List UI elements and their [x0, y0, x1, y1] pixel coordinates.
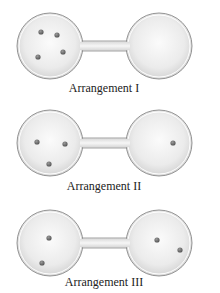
bulb-apparatus — [17, 13, 192, 79]
arrangement-2: Arrangement II — [17, 110, 192, 193]
arrangement-label: Arrangement III — [65, 275, 143, 289]
molecule-icon — [35, 54, 40, 59]
molecule-icon — [46, 235, 51, 240]
molecule-icon — [54, 32, 59, 37]
molecule-icon — [170, 140, 175, 145]
arrangement-label: Arrangement I — [69, 81, 139, 95]
gas-bulbs-diagram: Arrangement I Arrangement II Arrangement… — [0, 0, 220, 293]
molecule-icon — [60, 49, 65, 54]
molecule-icon — [154, 237, 159, 242]
molecule-icon — [39, 260, 44, 265]
molecule-icon — [177, 247, 182, 252]
arrangement-1: Arrangement I — [17, 13, 192, 95]
arrangement-3: Arrangement III — [17, 210, 192, 289]
molecule-icon — [46, 161, 51, 166]
bulb-apparatus — [17, 110, 192, 176]
molecule-icon — [62, 141, 67, 146]
molecule-icon — [34, 139, 39, 144]
bulb-apparatus — [17, 210, 192, 276]
molecule-icon — [38, 29, 43, 34]
arrangement-label: Arrangement II — [67, 179, 141, 193]
right-bulb-molecules — [170, 140, 175, 145]
